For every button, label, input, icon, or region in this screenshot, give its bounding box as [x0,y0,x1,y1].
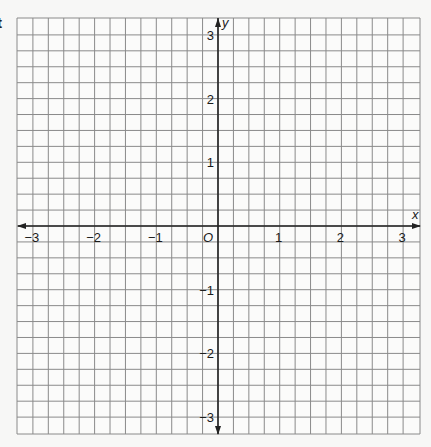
x-tick-label: 1 [275,230,282,245]
origin-label: O [203,230,213,245]
y-tick-label: −3 [199,410,214,425]
y-tick-label: −1 [199,283,214,298]
y-tick-label: 3 [207,28,214,43]
y-tick-label: 2 [207,92,214,107]
y-tick-label: −2 [199,346,214,361]
x-tick-label: −1 [148,230,163,245]
x-tick-label: −2 [86,230,101,245]
y-tick-label: 1 [207,155,214,170]
x-axis-name: x [411,207,419,222]
x-tick-label: −3 [24,230,39,245]
coordinate-plane: −3−2−1123321−1−2−3Oxy [0,0,431,447]
x-tick-label: 2 [337,230,344,245]
x-tick-label: 3 [398,230,405,245]
